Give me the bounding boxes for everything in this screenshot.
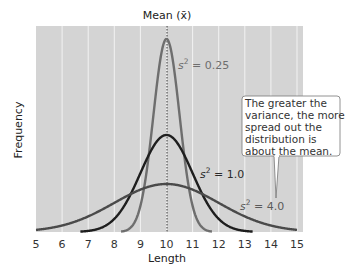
- svg-text:about the mean.: about the mean.: [245, 145, 332, 157]
- x-tick-label: 10: [160, 238, 174, 251]
- x-tick-label: 13: [238, 238, 252, 251]
- x-tick-label: 8: [111, 238, 118, 251]
- x-tick-label: 14: [264, 238, 278, 251]
- x-tick-label: 6: [59, 238, 66, 251]
- svg-text:distribution is: distribution is: [245, 133, 317, 145]
- x-tick-label: 15: [290, 238, 304, 251]
- x-tick-label: 12: [212, 238, 226, 251]
- x-tick-label: 7: [85, 238, 92, 251]
- x-axis-ticks: 56789101112131415: [33, 238, 305, 251]
- x-tick-label: 11: [186, 238, 200, 251]
- y-axis-label: Frequency: [12, 101, 25, 158]
- mean-label: Mean (x̄): [143, 9, 192, 22]
- svg-text:variance, the more: variance, the more: [245, 109, 345, 121]
- svg-text:The greater the: The greater the: [244, 97, 327, 109]
- x-axis-label: Length: [148, 252, 186, 265]
- normal-distribution-chart: Mean (x̄) s2 = 0.25 s2 = 1.0 s2 = 4.0 Th…: [0, 0, 346, 270]
- x-tick-label: 9: [137, 238, 144, 251]
- svg-text:spread out the: spread out the: [245, 121, 322, 133]
- x-tick-label: 5: [33, 238, 40, 251]
